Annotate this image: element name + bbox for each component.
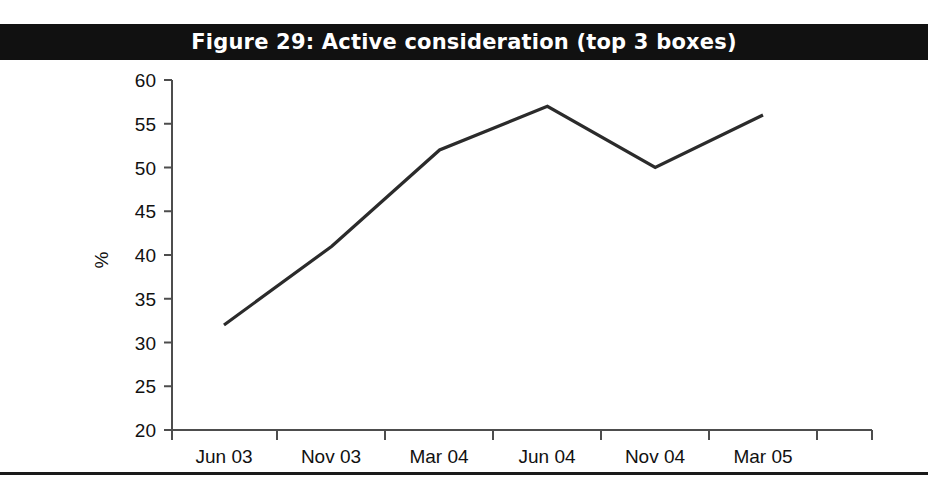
y-tick-label-30: 30 [135,333,156,354]
y-tick-label-50: 50 [135,158,156,179]
y-tick-label-45: 45 [135,201,156,222]
page-title: Figure 29: Active consideration (top 3 b… [191,30,736,54]
y-tick-label-60: 60 [135,70,156,91]
y-tick-label-25: 25 [135,376,156,397]
x-tick-label-jun-04: Jun 04 [518,446,575,467]
x-tick-label-jun-03: Jun 03 [195,446,252,467]
y-tick-label-20: 20 [135,420,156,441]
bottom-divider [0,472,928,475]
x-tick-label-mar-04: Mar 04 [409,446,469,467]
x-tick-label-mar-05: Mar 05 [733,446,792,467]
y-tick-label-40: 40 [135,245,156,266]
x-tick-label-nov-03: Nov 03 [301,446,361,467]
x-tick-label-nov-04: Nov 04 [625,446,686,467]
y-tick-label-55: 55 [135,114,156,135]
line-chart: 20 25 30 35 40 45 50 55 60 % [0,60,928,472]
y-tick-label-35: 35 [135,289,156,310]
chart-container: 20 25 30 35 40 45 50 55 60 % [0,60,928,472]
y-axis-tick-labels: 20 25 30 35 40 45 50 55 60 [135,70,156,441]
y-axis-title: % [91,251,112,268]
figure-page: Figure 29: Active consideration (top 3 b… [0,0,928,495]
figure-title-banner: Figure 29: Active consideration (top 3 b… [0,24,928,60]
